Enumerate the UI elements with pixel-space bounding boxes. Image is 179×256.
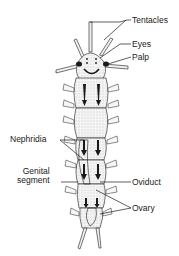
label-palp: Palp: [132, 53, 149, 62]
label-tentacles: Tentacles: [132, 16, 168, 25]
tail-cirri: [78, 228, 101, 249]
label-oviduct: Oviduct: [132, 178, 161, 187]
label-eyes: Eyes: [132, 40, 151, 49]
body-segments: [74, 78, 108, 228]
label-nephridia: Nephridia: [10, 135, 46, 144]
worm-diagram: [0, 0, 179, 256]
label-ovary: Ovary: [132, 204, 155, 213]
label-genital-segment: Genital segment: [17, 167, 50, 185]
